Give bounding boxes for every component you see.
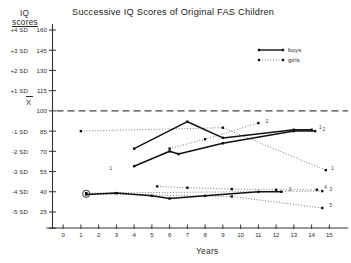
x-tick-label: 11 bbox=[252, 231, 264, 238]
data-point-label: 1 bbox=[331, 166, 334, 171]
y-tick-sd-label: +4 SD bbox=[2, 26, 28, 33]
y-tick-sd-label: -4 SD bbox=[2, 188, 28, 195]
y-tick-sd-label: -5 SD bbox=[2, 208, 28, 215]
y-tick-sd-label: +3 SD bbox=[2, 47, 28, 54]
x-tick-label: 6 bbox=[164, 231, 176, 238]
data-series bbox=[80, 120, 327, 209]
x-tick-label: 7 bbox=[181, 231, 193, 238]
x-tick-label: 10 bbox=[235, 231, 247, 238]
data-point-label: 2 bbox=[322, 127, 325, 132]
y-tick-sd-label: -3 SD bbox=[2, 168, 28, 175]
x-tick-label: 3 bbox=[110, 231, 122, 238]
data-point-label: 2 bbox=[266, 119, 269, 124]
x-tick-label: 9 bbox=[217, 231, 229, 238]
y-tick-iq-label: 40 bbox=[31, 188, 47, 195]
data-point-label: 1 bbox=[110, 166, 113, 171]
x-tick-label: 2 bbox=[93, 231, 105, 238]
chart-figure: Successive IQ Scores of Original FAS Chi… bbox=[0, 0, 351, 263]
y-tick-iq-label: 160 bbox=[31, 26, 47, 33]
x-tick-label: 8 bbox=[199, 231, 211, 238]
y-tick-sd-label: +2 SD bbox=[2, 67, 28, 74]
x-tick-label: 14 bbox=[306, 231, 318, 238]
y-tick-iq-label: 85 bbox=[31, 128, 47, 135]
x-tick-label: 12 bbox=[270, 231, 282, 238]
y-tick-iq-label: 145 bbox=[31, 47, 47, 54]
x-tick-label: 1 bbox=[75, 231, 87, 238]
y-tick-iq-label: 55 bbox=[31, 168, 47, 175]
y-tick-iq-label: 100 bbox=[31, 107, 47, 114]
data-point-label: 3 bbox=[330, 187, 333, 192]
y-tick-sd-label: -1 SD bbox=[2, 128, 28, 135]
y-tick-iq-label: 130 bbox=[31, 67, 47, 74]
y-tick-iq-label: 115 bbox=[31, 87, 47, 94]
x-tick-label: 5 bbox=[146, 231, 158, 238]
chart-plot-area bbox=[0, 0, 351, 263]
legend-label-girls: girls bbox=[288, 56, 300, 63]
data-point-label: 5 bbox=[330, 203, 333, 208]
y-tick-sd-label: +1 SD bbox=[2, 87, 28, 94]
y-tick-iq-label: 70 bbox=[31, 148, 47, 155]
chart-legend bbox=[258, 49, 284, 61]
y-tick-sd-label: -2 SD bbox=[2, 148, 28, 155]
data-point-label: 4 bbox=[324, 185, 327, 190]
x-tick-label: 15 bbox=[323, 231, 335, 238]
y-tick-iq-label: 25 bbox=[31, 208, 47, 215]
x-tick-label: 13 bbox=[288, 231, 300, 238]
x-tick-label: 0 bbox=[57, 231, 69, 238]
data-point-label: 1 bbox=[319, 125, 322, 130]
x-tick-label: 4 bbox=[128, 231, 140, 238]
legend-label-boys: boys bbox=[288, 46, 301, 53]
data-point-label: 3 bbox=[289, 187, 292, 192]
